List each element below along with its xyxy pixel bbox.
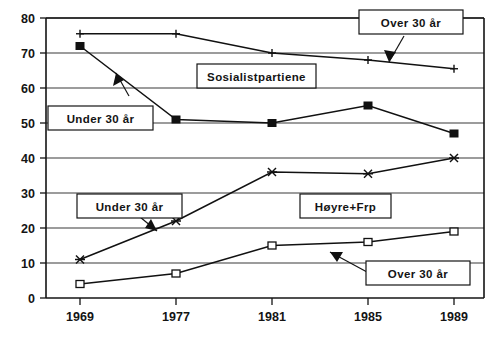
annotation-under-30-bottom: Under 30 år [77,194,182,218]
annotation-hoyre-frp: Høyre+Frp [300,194,391,218]
annotation-hoyre-frp-label: Høyre+Frp [315,201,376,213]
x-label-1985: 1985 [354,310,382,324]
line-chart: 80 70 60 50 40 30 20 10 0 1969 1977 1981… [0,0,499,339]
x-label-1969: 1969 [66,310,94,324]
data-point-marker [450,130,458,137]
y-label-60: 60 [21,82,35,96]
annotation-under-30-top-label: Under 30 år [67,113,135,125]
annotation-over-30-top: Over 30 år [359,10,463,34]
y-axis-labels: 80 70 60 50 40 30 20 10 0 [21,12,35,306]
chart-background [0,0,499,339]
annotation-over-30-top-label: Over 30 år [381,17,441,29]
data-point-marker [268,120,276,127]
data-point-marker [172,116,180,123]
y-label-10: 10 [21,257,35,271]
annotation-over-30-bottom-label: Over 30 år [388,268,448,280]
data-point-marker [76,281,84,288]
y-label-40: 40 [21,152,35,166]
annotation-under-30-bottom-label: Under 30 år [96,201,164,213]
y-label-70: 70 [21,47,35,61]
data-point-marker [76,43,84,50]
y-label-30: 30 [21,187,35,201]
annotation-over-30-bottom: Over 30 år [366,261,470,285]
x-label-1989: 1989 [440,310,468,324]
data-point-marker [268,242,276,249]
data-point-marker [172,270,180,277]
y-label-80: 80 [21,12,35,26]
annotation-under-30-top: Under 30 år [48,106,153,130]
y-label-0: 0 [28,292,35,306]
y-label-50: 50 [21,117,35,131]
data-point-marker [364,102,372,109]
annotation-sosialistpartiene-label: Sosialistpartiene [207,71,306,83]
x-label-1981: 1981 [258,310,286,324]
x-label-1977: 1977 [162,310,190,324]
y-label-20: 20 [21,222,35,236]
data-point-marker [450,228,458,235]
chart-container: 80 70 60 50 40 30 20 10 0 1969 1977 1981… [0,0,499,339]
annotation-sosialistpartiene: Sosialistpartiene [197,64,316,88]
data-point-marker [364,239,372,246]
